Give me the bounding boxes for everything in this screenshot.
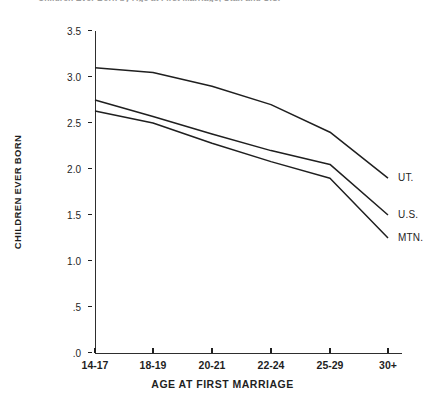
x-tick-label: 14-17 xyxy=(82,359,109,371)
plot-area: .0.51.01.52.02.53.03.5 14-1718-1920-2122… xyxy=(72,28,402,356)
series-label-ut: UT. xyxy=(398,172,414,183)
series-label-us: U.S. xyxy=(398,209,418,220)
x-tick-label: 20-21 xyxy=(199,359,226,371)
chart-figure: Children Ever Born by Age at First Marri… xyxy=(0,0,445,412)
series-line-mtn xyxy=(95,111,388,238)
series-line-ut xyxy=(95,68,388,178)
x-tick-label: 25-29 xyxy=(317,359,344,371)
chart-title: Children Ever Born by Age at First Marri… xyxy=(38,0,408,2)
series-line-us xyxy=(95,100,388,215)
series-lines xyxy=(72,28,402,356)
x-tick-label: 18-19 xyxy=(140,359,167,371)
series-label-mtn: MTN. xyxy=(398,232,423,243)
y-axis-title: CHILDREN EVER BORN xyxy=(12,135,23,250)
x-axis-title: AGE AT FIRST MARRIAGE xyxy=(0,378,445,390)
x-tick-label: 30+ xyxy=(379,359,397,371)
x-tick-label: 22-24 xyxy=(258,359,285,371)
